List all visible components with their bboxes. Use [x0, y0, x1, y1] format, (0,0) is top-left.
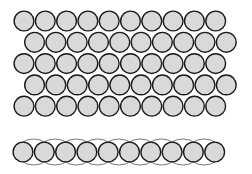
row-circle [120, 142, 140, 162]
packed-circle [89, 75, 109, 95]
packed-circle [153, 75, 173, 95]
packed-circle [110, 32, 130, 52]
packed-circle [14, 54, 34, 74]
packed-circle [46, 32, 66, 52]
packed-circle [131, 32, 151, 52]
packed-circle [131, 75, 151, 95]
circle-packing-diagram [0, 0, 252, 174]
packed-circle [35, 11, 55, 31]
packed-circle [195, 32, 215, 52]
packed-circle-block [14, 11, 236, 116]
packed-circle [121, 54, 141, 74]
packed-circle [142, 96, 162, 116]
packed-circle [206, 96, 226, 116]
packed-circle [185, 11, 205, 31]
packed-circle [99, 96, 119, 116]
packed-circle [78, 96, 98, 116]
row-circle [184, 142, 204, 162]
row-circle [56, 142, 76, 162]
packed-circle [67, 75, 87, 95]
packed-circle [57, 96, 77, 116]
packed-circle [57, 11, 77, 31]
packed-circle [142, 11, 162, 31]
row-circles [13, 142, 225, 162]
packed-circle [185, 96, 205, 116]
packed-circle [153, 32, 173, 52]
row-circle [162, 142, 182, 162]
packed-circle [99, 54, 119, 74]
packed-circle [163, 54, 183, 74]
row-circle [98, 142, 118, 162]
packed-circle [14, 11, 34, 31]
packed-circle [174, 75, 194, 95]
packed-circle [57, 54, 77, 74]
packed-circle [121, 11, 141, 31]
packed-circle [121, 96, 141, 116]
row-circle [34, 142, 54, 162]
row-circle [141, 142, 161, 162]
packed-circle [67, 32, 87, 52]
packed-circle [174, 32, 194, 52]
packed-circle [35, 96, 55, 116]
linear-circle-row [13, 139, 225, 165]
packed-circle [25, 75, 45, 95]
packed-circle [110, 75, 130, 95]
packed-circle [35, 54, 55, 74]
packed-circle [216, 75, 236, 95]
packed-circle [195, 75, 215, 95]
packed-circle [46, 75, 66, 95]
packed-circle [216, 32, 236, 52]
row-circle [205, 142, 225, 162]
packed-circle [163, 11, 183, 31]
packed-circle [163, 96, 183, 116]
packed-circle [185, 54, 205, 74]
packed-circle [14, 96, 34, 116]
packed-circle [25, 32, 45, 52]
row-circle [77, 142, 97, 162]
packed-circle [142, 54, 162, 74]
packed-circle [206, 54, 226, 74]
packed-circle [78, 11, 98, 31]
packed-circle [99, 11, 119, 31]
row-circle [13, 142, 33, 162]
packed-circle [89, 32, 109, 52]
packed-circle [78, 54, 98, 74]
packed-circle [206, 11, 226, 31]
